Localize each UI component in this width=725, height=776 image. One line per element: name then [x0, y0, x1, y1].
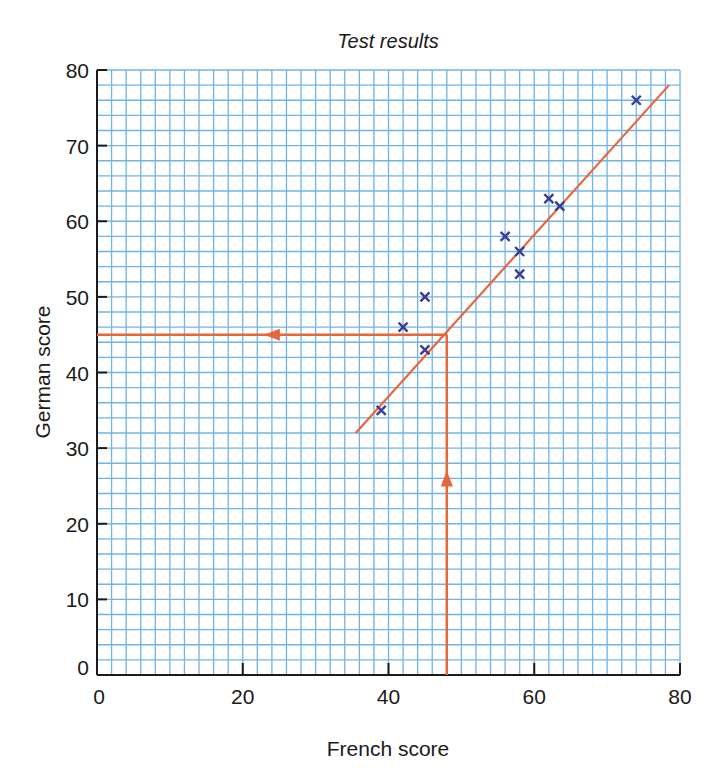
y-tick-label: 10: [66, 588, 89, 611]
x-tick-label: 20: [231, 685, 254, 708]
y-tick-label: 50: [66, 286, 89, 309]
x-marker-icon: [420, 345, 429, 354]
y-tick-label: 60: [66, 210, 89, 233]
x-tick-label: 40: [377, 685, 400, 708]
grid: [97, 70, 680, 675]
y-tick-label: 40: [66, 362, 89, 385]
y-tick-label: 30: [66, 437, 89, 460]
y-axis-ticks: 01020304050607080: [66, 59, 107, 679]
y-tick-label: 0: [77, 656, 89, 679]
read-off-lines: [97, 329, 453, 675]
x-tick-label: 80: [668, 685, 691, 708]
x-marker-icon: [377, 406, 386, 415]
x-tick-label: 60: [523, 685, 546, 708]
y-tick-label: 80: [66, 59, 89, 82]
x-axis-ticks: 020406080: [93, 663, 692, 708]
x-tick-label: 0: [93, 685, 105, 708]
chart-title: Test results: [337, 30, 439, 52]
y-tick-label: 20: [66, 513, 89, 536]
scatter-chart: Test results 020406080 01020304050607080…: [0, 0, 725, 776]
y-tick-label: 70: [66, 135, 89, 158]
y-axis-label: German score: [31, 305, 54, 438]
x-axis-label: French score: [327, 737, 450, 760]
